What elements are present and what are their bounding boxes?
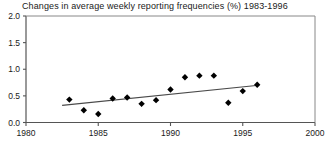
data-point-marker <box>66 96 72 102</box>
data-point-marker <box>124 94 130 100</box>
y-tick-label: 0.5 <box>0 91 20 101</box>
data-point-marker <box>138 101 144 107</box>
data-point-marker <box>211 72 217 78</box>
x-tick-label: 1980 <box>6 128 46 138</box>
data-point-marker <box>153 97 159 103</box>
data-point-marker <box>182 74 188 80</box>
x-tick-label: 1990 <box>151 128 191 138</box>
data-point-marker <box>196 72 202 78</box>
x-tick-label: 2000 <box>295 128 329 138</box>
data-point-marker <box>254 81 260 87</box>
x-tick-label: 1995 <box>223 128 263 138</box>
chart-container: Changes in average weekly reporting freq… <box>0 0 329 149</box>
data-point-marker <box>167 86 173 92</box>
data-point-marker <box>95 111 101 117</box>
y-tick-label: 0.0 <box>0 118 20 128</box>
data-point-marker <box>240 88 246 94</box>
data-point-marker <box>225 100 231 106</box>
y-tick-label: 1.5 <box>0 38 20 48</box>
data-point-marker <box>81 107 87 113</box>
y-tick-label: 2.0 <box>0 11 20 21</box>
y-tick-label: 1.0 <box>0 64 20 74</box>
x-tick-label: 1985 <box>78 128 118 138</box>
